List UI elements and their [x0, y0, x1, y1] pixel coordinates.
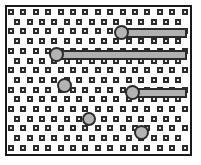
lattice-site — [14, 19, 20, 25]
lattice-site — [20, 87, 26, 93]
lattice-site — [157, 9, 163, 15]
lattice-site — [33, 145, 39, 151]
lattice-site — [126, 77, 132, 83]
lattice-site — [113, 77, 119, 83]
lattice-site — [151, 135, 157, 141]
rod-head-particle — [49, 47, 64, 62]
lattice-site — [182, 106, 188, 112]
lattice-site — [95, 67, 101, 73]
lattice-site — [45, 67, 51, 73]
lattice-site — [151, 116, 157, 122]
lattice-site — [132, 145, 138, 151]
lattice-site — [107, 106, 113, 112]
lattice-site — [101, 19, 107, 25]
lattice-site — [70, 145, 76, 151]
lattice-site — [163, 19, 169, 25]
lattice-site — [14, 116, 20, 122]
lattice-site — [175, 116, 181, 122]
lattice-site — [14, 96, 20, 102]
lattice-site — [27, 58, 33, 64]
lattice-site — [107, 28, 113, 34]
lattice-site — [169, 9, 175, 15]
lattice-site — [95, 87, 101, 93]
lattice-site — [76, 96, 82, 102]
lattice-site — [182, 125, 188, 131]
lattice-site — [58, 9, 64, 15]
lattice-site — [95, 9, 101, 15]
lattice-site — [8, 125, 14, 131]
lattice-site — [101, 38, 107, 44]
lattice-site — [101, 77, 107, 83]
lattice-site — [8, 9, 14, 15]
lattice-site — [14, 38, 20, 44]
lattice-site — [8, 87, 14, 93]
lattice-site — [107, 87, 113, 93]
lattice-site — [14, 135, 20, 141]
lattice-site — [45, 125, 51, 131]
lattice-site — [82, 67, 88, 73]
lattice-site — [126, 135, 132, 141]
lattice-site — [138, 19, 144, 25]
lattice-site — [163, 116, 169, 122]
lattice-site — [182, 145, 188, 151]
lattice-site — [33, 28, 39, 34]
lattice-site — [20, 125, 26, 131]
lattice-site — [76, 38, 82, 44]
lattice-site — [151, 19, 157, 25]
lattice-site — [182, 67, 188, 73]
lattice-diagram-figure — [0, 0, 201, 165]
lattice-site — [33, 106, 39, 112]
lattice-site — [39, 96, 45, 102]
lattice-site — [113, 19, 119, 25]
lattice-site — [20, 28, 26, 34]
lattice-site — [113, 135, 119, 141]
lattice-site — [45, 145, 51, 151]
lattice-site — [27, 19, 33, 25]
lattice-site — [157, 145, 163, 151]
lattice-site — [126, 116, 132, 122]
lattice-site — [132, 9, 138, 15]
lattice-site — [138, 77, 144, 83]
lattice-site — [95, 125, 101, 131]
lattice-site — [89, 77, 95, 83]
lattice-site — [169, 67, 175, 73]
rod-head-particle — [125, 85, 140, 100]
lattice-site — [27, 77, 33, 83]
lattice-site — [70, 125, 76, 131]
lattice-site — [58, 28, 64, 34]
lattice-site — [138, 116, 144, 122]
lattice-site — [8, 106, 14, 112]
lattice-site — [163, 135, 169, 141]
lattice-site — [45, 87, 51, 93]
lattice-site — [70, 9, 76, 15]
lattice-site — [95, 28, 101, 34]
lattice-site — [157, 106, 163, 112]
lattice-site — [39, 135, 45, 141]
lattice-site — [27, 116, 33, 122]
lattice-site — [58, 125, 64, 131]
lattice-site — [14, 58, 20, 64]
lattice-site — [64, 135, 70, 141]
lattice-site — [82, 28, 88, 34]
lattice-site — [58, 145, 64, 151]
lattice-site — [39, 116, 45, 122]
lattice-site — [120, 67, 126, 73]
lattice-site — [113, 116, 119, 122]
lattice-site — [64, 116, 70, 122]
lattice-site — [163, 77, 169, 83]
lattice-site — [144, 106, 150, 112]
lattice-site — [39, 58, 45, 64]
lattice-site — [169, 145, 175, 151]
lattice-site — [20, 9, 26, 15]
lattice-site — [8, 145, 14, 151]
lattice-site — [20, 67, 26, 73]
lattice-site — [175, 77, 181, 83]
lattice-site — [120, 106, 126, 112]
lattice-site — [51, 19, 57, 25]
lattice-site — [169, 106, 175, 112]
rod-bar — [126, 28, 187, 38]
lattice-site — [144, 145, 150, 151]
lattice-site — [95, 145, 101, 151]
lattice-site — [107, 67, 113, 73]
lattice-site — [8, 28, 14, 34]
